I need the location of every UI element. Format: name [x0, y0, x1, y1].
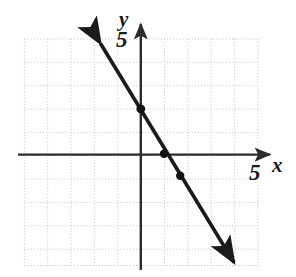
coordinate-plane-svg: y 5 x 5 — [0, 0, 296, 277]
point-x-intercept — [160, 150, 168, 158]
y-tick-label-5: 5 — [116, 27, 128, 52]
background — [0, 0, 296, 277]
x-axis-label: x — [271, 153, 283, 177]
point-y-intercept — [136, 104, 145, 113]
x-tick-label-5: 5 — [249, 160, 261, 185]
graph-canvas: y 5 x 5 — [0, 0, 296, 277]
point-third — [176, 172, 184, 180]
